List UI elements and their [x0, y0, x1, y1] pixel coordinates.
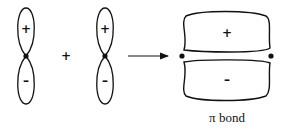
negative-sign: – [23, 74, 29, 88]
positive-sign: + [222, 26, 232, 40]
pi-bond-diagram: + – + + – + – π bond [0, 0, 287, 131]
negative-sign: – [102, 74, 108, 88]
nucleus-dot [23, 53, 28, 58]
positive-sign: + [21, 22, 31, 36]
left-nucleus-dot [179, 53, 184, 58]
p-orbital-2: + – [97, 8, 114, 104]
negative-sign: – [224, 73, 230, 87]
positive-sign: + [100, 22, 110, 36]
nucleus-dot [102, 53, 107, 58]
p-orbital-1: + – [18, 8, 35, 104]
pi-bond: + – π bond [179, 12, 273, 126]
plus-operator: + [61, 49, 71, 63]
pi-bond-label: π bond [209, 110, 245, 125]
right-nucleus-dot [268, 53, 273, 58]
